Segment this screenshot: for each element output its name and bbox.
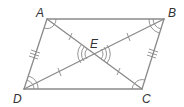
tick-marks-ad xyxy=(29,50,40,59)
tick-marks-bc xyxy=(147,49,158,58)
vertex-label-e: E xyxy=(90,37,99,51)
diagonal-bd xyxy=(24,19,164,89)
angle-arc-c xyxy=(132,83,135,89)
parallelogram-diagram: A B C D E xyxy=(0,0,184,107)
vertex-label-c: C xyxy=(142,92,151,106)
vertex-label-a: A xyxy=(35,6,44,20)
vertex-label-b: B xyxy=(168,6,176,20)
vertex-label-d: D xyxy=(13,92,22,106)
angle-arc-a xyxy=(54,19,56,25)
